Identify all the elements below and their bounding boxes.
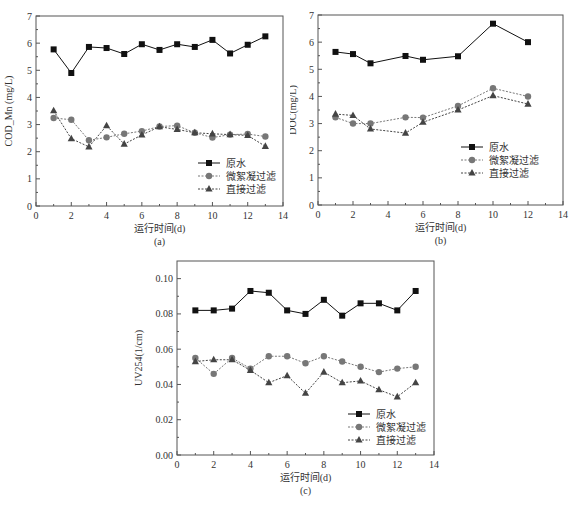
square-marker [211, 307, 217, 313]
y-tick-label: 0.00 [156, 450, 174, 461]
legend: 原水微絮凝过滤直接过滤 [198, 158, 276, 195]
square-marker [262, 33, 268, 39]
x-tick-label: 4 [386, 209, 391, 220]
circle-marker [86, 137, 92, 143]
triangle-marker [210, 356, 217, 363]
circle-marker [469, 157, 475, 163]
y-tick-label: 3 [27, 119, 32, 130]
triangle-marker [320, 368, 327, 375]
triangle-marker [412, 379, 419, 386]
legend-label: 直接过滤 [226, 183, 266, 195]
square-marker [420, 57, 426, 63]
circle-marker [376, 369, 382, 375]
triangle-marker [367, 125, 374, 132]
triangle-marker [489, 92, 496, 99]
legend-label: 微絮凝过滤 [489, 154, 539, 166]
triangle-marker [402, 129, 409, 136]
triangle-marker [284, 372, 291, 379]
x-tick-label: 0 [34, 210, 39, 221]
square-marker [266, 290, 272, 296]
y-tick-label: 1 [309, 172, 314, 183]
square-marker [413, 288, 419, 294]
triangle-marker [394, 393, 401, 400]
y-tick-label: 0.06 [156, 344, 174, 355]
square-marker [303, 311, 309, 317]
triangle-marker [103, 122, 110, 129]
x-tick-label: 4 [104, 210, 109, 221]
x-tick-label: 14 [278, 210, 288, 221]
y-tick-label: 7 [27, 11, 32, 22]
y-tick-label: 2 [309, 145, 314, 156]
square-marker [192, 44, 198, 50]
chart-panel-b: 0246810121401234567运行时间(d)(b)DOC(mg/L)原水… [290, 0, 574, 250]
circle-marker [211, 371, 217, 377]
triangle-marker [262, 142, 269, 149]
y-tick-label: 4 [309, 91, 314, 102]
y-tick-label: 6 [309, 37, 314, 48]
uv254-chart: 024681012140.000.020.040.060.080.10运行时间(… [130, 250, 450, 513]
x-axis-label: 运行时间(d) [134, 222, 186, 235]
legend-label: 原水 [489, 142, 509, 153]
x-tick-label: 2 [211, 459, 216, 470]
x-tick-label: 2 [69, 210, 74, 221]
square-marker [209, 37, 215, 43]
circle-marker [284, 353, 290, 359]
legend-label: 直接过滤 [376, 434, 416, 446]
circle-marker [394, 365, 400, 371]
series-line [336, 24, 529, 64]
circle-marker [412, 364, 418, 370]
square-marker [284, 307, 290, 313]
circle-marker [357, 364, 363, 370]
x-tick-label: 0 [316, 209, 321, 220]
series-line [54, 36, 266, 73]
circle-marker [68, 116, 74, 122]
x-tick-label: 10 [488, 209, 498, 220]
x-tick-label: 14 [429, 459, 439, 470]
x-tick-label: 10 [207, 210, 217, 221]
square-marker [227, 50, 233, 56]
y-tick-label: 6 [27, 38, 32, 49]
triangle-marker [332, 110, 339, 117]
circle-marker [262, 133, 268, 139]
legend-label: 微絮凝过滤 [376, 421, 426, 433]
legend: 原水微絮凝过滤直接过滤 [348, 409, 426, 446]
triangle-marker [357, 377, 364, 384]
x-tick-label: 12 [392, 459, 402, 470]
circle-marker [490, 85, 496, 91]
y-tick-label: 0.02 [156, 414, 174, 425]
series-markers [192, 288, 418, 319]
y-tick-label: 0.08 [156, 308, 174, 319]
triangle-marker [302, 389, 309, 396]
x-tick-label: 8 [321, 459, 326, 470]
circle-marker [356, 424, 362, 430]
y-tick-label: 5 [309, 64, 314, 75]
triangle-marker [205, 185, 212, 192]
circle-marker [50, 115, 56, 121]
doc-chart: 0246810121401234567运行时间(d)(b)DOC(mg/L)原水… [290, 0, 574, 250]
square-marker [333, 49, 339, 55]
square-marker [394, 307, 400, 313]
y-axis-label: DOC(mg/L) [290, 85, 299, 134]
y-axis-label: COD_Mn (mg/L) [3, 76, 15, 147]
x-tick-label: 4 [248, 459, 253, 470]
panel-label: (b) [435, 235, 447, 247]
square-marker [376, 300, 382, 306]
square-marker [490, 21, 496, 27]
square-marker [368, 60, 374, 66]
square-marker [104, 45, 110, 51]
square-marker [86, 44, 92, 50]
chart-panel-a: 0246810121401234567运行时间(d)(a)COD_Mn (mg/… [0, 0, 290, 250]
triangle-marker [265, 379, 272, 386]
panel-label: (c) [300, 485, 311, 497]
circle-marker [121, 131, 127, 137]
series-line [336, 88, 529, 123]
square-marker [139, 41, 145, 47]
square-marker [229, 306, 235, 312]
panel-label: (a) [154, 236, 165, 248]
triangle-marker [209, 130, 216, 137]
x-tick-label: 6 [421, 209, 426, 220]
y-tick-label: 0.10 [156, 273, 174, 284]
x-tick-label: 12 [243, 210, 253, 221]
series-markers [332, 92, 532, 136]
square-marker [358, 300, 364, 306]
